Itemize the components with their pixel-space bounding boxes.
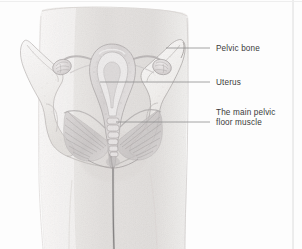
- anatomy-figure: Pelvic bone Uterus The main pelvic floor…: [0, 0, 302, 249]
- label-uterus: Uterus: [216, 78, 241, 88]
- label-pelvic-bone: Pelvic bone: [216, 44, 260, 54]
- perineal-body: [106, 157, 120, 167]
- perineal-line-shadow: [113, 168, 114, 249]
- label-pelvic-floor-muscle: The main pelvic floor muscle: [216, 108, 276, 128]
